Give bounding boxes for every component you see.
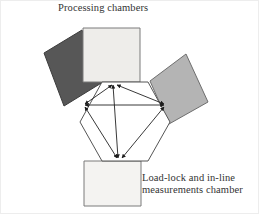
chamber-bottom-loadlock[interactable] (84, 161, 141, 206)
figure-root: Processing chambers Load-lock and in-lin… (0, 0, 259, 214)
chamber-top-processing[interactable] (83, 28, 140, 82)
label-loadlock-chamber: Load-lock and in-line measurements chamb… (142, 172, 243, 196)
label-processing-chambers: Processing chambers (58, 2, 148, 14)
